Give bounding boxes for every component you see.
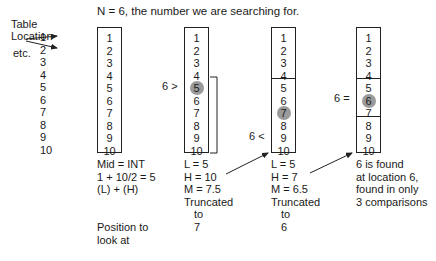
range-bracket bbox=[210, 77, 217, 153]
step-arrow-1 bbox=[226, 153, 268, 174]
location-pointer-arrows bbox=[26, 36, 57, 48]
step-arrow-2 bbox=[310, 153, 352, 173]
